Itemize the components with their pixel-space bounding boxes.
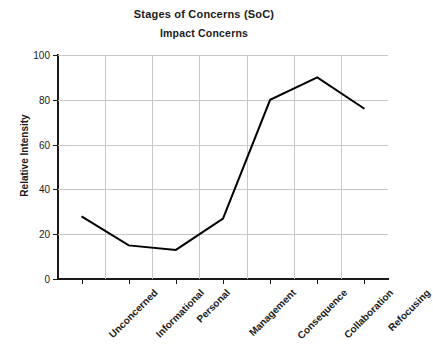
x-axis-tick-label: Collaboration bbox=[342, 287, 395, 340]
x-axis-tick-mark bbox=[364, 280, 365, 284]
x-axis-tick-mark bbox=[129, 280, 130, 284]
y-axis-tick-label: 0 bbox=[8, 274, 50, 285]
y-axis-tick-label: 60 bbox=[8, 139, 50, 150]
x-axis-tick-label: Unconcerned bbox=[106, 287, 159, 340]
y-axis-tick-label: 80 bbox=[8, 94, 50, 105]
chart-title: Stages of Concerns (SoC) bbox=[0, 8, 408, 20]
y-axis-tick-label: 20 bbox=[8, 229, 50, 240]
x-axis-tick-mark bbox=[223, 280, 224, 284]
y-axis-tick-label: 100 bbox=[8, 50, 50, 61]
x-axis-tick-label: Management bbox=[247, 287, 298, 338]
y-axis-title: Relative Intensity bbox=[19, 86, 30, 226]
x-axis-tick-mark bbox=[82, 280, 83, 284]
chart-subtitle: Impact Concerns bbox=[0, 27, 408, 39]
x-axis-tick-mark bbox=[176, 280, 177, 284]
x-axis-tick-mark bbox=[270, 280, 271, 284]
data-series-line bbox=[58, 55, 388, 279]
x-axis-tick-mark bbox=[317, 280, 318, 284]
y-axis-tick-label: 40 bbox=[8, 184, 50, 195]
plot-area bbox=[58, 55, 388, 279]
